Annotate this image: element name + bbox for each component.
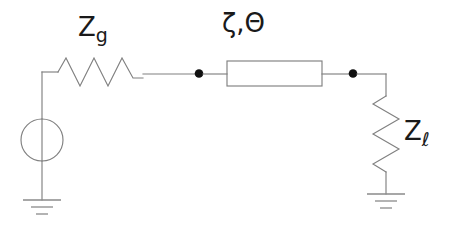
node-dot-right bbox=[349, 69, 358, 78]
transmission-line-box bbox=[227, 61, 322, 86]
node-dot-left bbox=[195, 69, 204, 78]
source-resistor-zigzag bbox=[58, 58, 143, 86]
load-impedance-base: Z bbox=[404, 116, 422, 146]
source-impedance-base: Z bbox=[78, 12, 96, 42]
load-impedance-label: Zℓ bbox=[404, 118, 430, 149]
load-resistor-zigzag bbox=[373, 96, 399, 172]
load-impedance-subscript: ℓ bbox=[422, 128, 430, 150]
transmission-line-params: ζ,Θ bbox=[222, 8, 265, 38]
circuit-diagram: Zg ζ,Θ Zℓ bbox=[0, 0, 455, 233]
source-impedance-label: Zg bbox=[78, 14, 108, 45]
source-impedance-subscript: g bbox=[96, 24, 108, 46]
transmission-line-label: ζ,Θ bbox=[222, 10, 265, 36]
